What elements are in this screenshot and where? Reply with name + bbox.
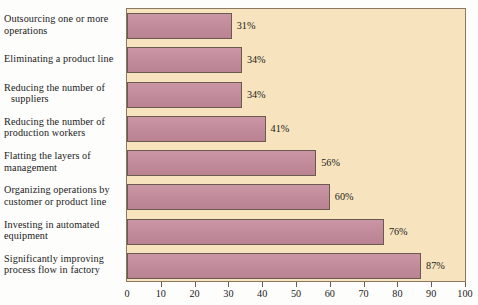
x-axis: 0102030405060708090100 [126, 282, 466, 305]
category-label: Reducing the number ofproduction workers [4, 116, 124, 139]
x-axis-tick [262, 282, 263, 287]
category-label-line1: Reducing the number of [4, 116, 105, 127]
category-label-line1: Significantly improving [4, 253, 104, 264]
horizontal-bar-chart: Outsourcing one or moreoperationsElimina… [0, 0, 478, 305]
x-axis-tick-label: 70 [359, 288, 369, 300]
bar-value-label: 56% [321, 150, 340, 176]
x-axis-tick [465, 282, 466, 287]
category-label: Investing in automatedequipment [4, 219, 124, 242]
bar [127, 184, 330, 210]
bar [127, 150, 316, 176]
bar-value-label: 34% [247, 82, 266, 108]
category-label-line2: suppliers [4, 93, 124, 105]
category-label-line2: management [4, 162, 124, 174]
category-label-column: Outsourcing one or moreoperationsElimina… [0, 8, 126, 282]
x-axis-tick [364, 282, 365, 287]
x-axis-tick [397, 282, 398, 287]
category-label-line1: Eliminating a product line [4, 53, 113, 64]
x-axis-tick-label: 0 [124, 288, 129, 300]
bar [127, 13, 232, 39]
plot-area: 31%34%34%41%56%60%76%87% [126, 8, 466, 282]
category-label: Flatting the layers ofmanagement [4, 150, 124, 173]
bar-value-label: 76% [389, 219, 408, 245]
x-axis-tick-label: 90 [426, 288, 436, 300]
x-axis-tick [195, 282, 196, 287]
x-axis-tick [296, 282, 297, 287]
category-label: Outsourcing one or moreoperations [4, 13, 124, 36]
category-label-line1: Organizing operations by [4, 184, 110, 195]
x-axis-tick-label: 60 [325, 288, 335, 300]
category-label-line1: Investing in automated [4, 219, 100, 230]
x-axis-tick-label: 20 [190, 288, 200, 300]
category-label-line2: customer or product line [4, 196, 124, 208]
bars-container: 31%34%34%41%56%60%76%87% [127, 9, 465, 281]
bar-value-label: 41% [271, 116, 290, 142]
category-label: Reducing the number ofsuppliers [4, 82, 124, 105]
category-label: Eliminating a product line [4, 53, 124, 65]
x-axis-tick-label: 80 [392, 288, 402, 300]
x-axis-tick [431, 282, 432, 287]
x-axis-tick-label: 50 [291, 288, 301, 300]
category-label-line1: Outsourcing one or more [4, 13, 108, 24]
bar-value-label: 60% [335, 184, 354, 210]
bar-value-label: 34% [247, 47, 266, 73]
bar-value-label: 87% [426, 253, 445, 279]
category-label-line2: process flow in factory [4, 264, 124, 276]
category-label-line2: equipment [4, 230, 124, 242]
bar [127, 116, 266, 142]
x-axis-tick-label: 40 [257, 288, 267, 300]
bar [127, 47, 242, 73]
x-axis-tick-label: 10 [156, 288, 166, 300]
x-axis-tick [161, 282, 162, 287]
x-axis-tick [330, 282, 331, 287]
x-axis-tick-label: 30 [223, 288, 233, 300]
category-label: Organizing operations bycustomer or prod… [4, 184, 124, 207]
category-label-line1: Flatting the layers of [4, 150, 91, 161]
category-label: Significantly improvingprocess flow in f… [4, 253, 124, 276]
bar-value-label: 31% [237, 13, 256, 39]
category-label-line1: Reducing the number of [4, 82, 105, 93]
x-axis-tick-label: 100 [457, 288, 472, 300]
category-label-line2: operations [4, 25, 124, 37]
bar [127, 82, 242, 108]
category-label-line2: production workers [4, 127, 124, 139]
bar [127, 219, 384, 245]
bar [127, 253, 421, 279]
x-axis-tick [228, 282, 229, 287]
